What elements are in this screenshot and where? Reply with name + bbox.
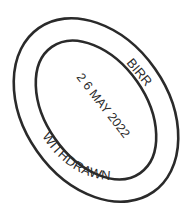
stamp-graphic: BIRR WITHDRAWN 2 6 MAY 2022 xyxy=(0,0,190,214)
stamp-bottom-text: WITHDRAWN xyxy=(40,129,112,183)
withdrawn-stamp: BIRR WITHDRAWN 2 6 MAY 2022 xyxy=(0,0,190,214)
stamp-date: 2 6 MAY 2022 xyxy=(74,70,133,140)
outer-ring xyxy=(0,0,190,214)
